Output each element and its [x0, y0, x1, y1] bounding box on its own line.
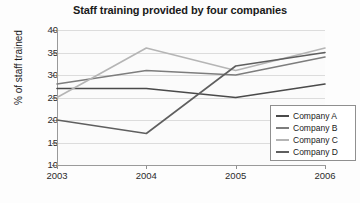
legend-item[interactable]: Company D: [276, 146, 351, 158]
legend-label: Company C: [293, 134, 338, 146]
legend: Company ACompany BCompany CCompany D: [270, 105, 356, 161]
y-tick-label: 15: [32, 137, 58, 148]
y-tick-label: 40: [32, 24, 58, 35]
x-tick-label: 2006: [303, 170, 347, 181]
legend-swatch-icon: [276, 115, 289, 117]
y-tick-label: 35: [32, 47, 58, 58]
legend-item[interactable]: Company A: [276, 110, 351, 122]
legend-label: Company A: [293, 110, 337, 122]
gridline: [57, 75, 325, 76]
y-tick-label: 10: [32, 159, 58, 170]
legend-swatch-icon: [276, 151, 289, 153]
gridline: [57, 98, 325, 99]
legend-item[interactable]: Company B: [276, 122, 351, 134]
line-chart: Staff training provided by four companie…: [0, 0, 360, 203]
legend-item[interactable]: Company C: [276, 134, 351, 146]
y-tick-label: 30: [32, 69, 58, 80]
x-axis-line: [57, 165, 326, 166]
legend-label: Company B: [293, 122, 337, 134]
gridline: [57, 53, 325, 54]
y-tick-label: 20: [32, 114, 58, 125]
y-axis-title: % of staff trained: [13, 14, 24, 122]
gridline: [57, 30, 325, 31]
legend-label: Company D: [293, 146, 338, 158]
x-tick-label: 2005: [214, 170, 258, 181]
x-tick-label: 2003: [35, 170, 79, 181]
y-axis-line: [57, 29, 58, 166]
x-tick-label: 2004: [124, 170, 168, 181]
legend-swatch-icon: [276, 139, 289, 141]
y-tick-label: 25: [32, 92, 58, 103]
legend-swatch-icon: [276, 127, 289, 129]
chart-title: Staff training provided by four companie…: [0, 4, 360, 16]
